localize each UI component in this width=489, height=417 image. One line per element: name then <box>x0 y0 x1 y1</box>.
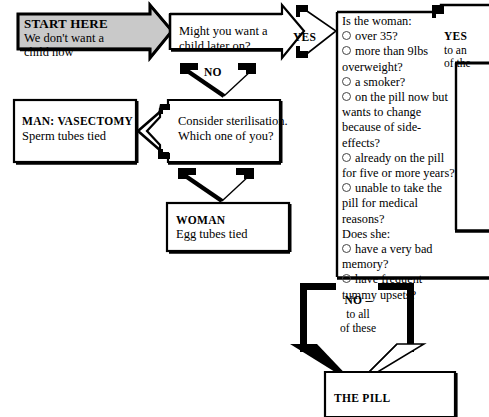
circle-bullet-icon <box>342 77 351 86</box>
circle-bullet-icon <box>342 274 351 283</box>
woman-line-1: Egg tubes tied <box>176 227 248 242</box>
start-line-1: We don't want a <box>24 31 104 46</box>
questions-prompt-2: Does she: <box>342 227 488 242</box>
circle-bullet-icon <box>342 153 351 162</box>
start-heading: START HERE <box>24 16 108 31</box>
question-item-a-3-cont: effects? <box>342 136 488 151</box>
sterilisation-line-2: Which one of you? <box>178 129 273 144</box>
circle-bullet-icon <box>342 183 351 192</box>
edge-label-yes-questions-2: to an <box>444 44 467 56</box>
edge-label-yes-questions-1: YES <box>444 30 467 42</box>
question-item-a-5-cont: reasons? <box>342 212 488 227</box>
vasectomy-line-1: Sperm tubes tied <box>22 129 106 144</box>
the-pill-heading: THE PILL <box>334 391 390 405</box>
sterilisation-line-1: Consider sterilisation. <box>178 114 288 129</box>
question-item-a-5: unable to take the <box>342 181 488 196</box>
question-item-b-1: have frequent <box>342 272 488 287</box>
flowchart-canvas: START HERE We don't want a child now Mig… <box>0 0 489 417</box>
arrow-to-woman <box>178 168 254 201</box>
circle-bullet-icon <box>342 244 351 253</box>
edge-label-yes-questions-3: of the <box>444 57 471 69</box>
edge-label-no-all-1: NO – <box>330 294 386 306</box>
question-item-a-3-cont: because of side- <box>342 120 488 135</box>
question-item-a-3: on the pill now but <box>342 90 488 105</box>
later-child-line-1: Might you want a <box>179 24 268 39</box>
question-item-a-5-cont: pill for medical <box>342 196 488 211</box>
edge-label-no-all-2: to all <box>330 308 386 320</box>
vasectomy-heading: MAN: VASECTOMY <box>22 114 133 128</box>
later-child-line-2: child later on? <box>179 39 251 54</box>
questions-prompt-1: Is the woman: <box>342 14 488 29</box>
question-item-a-4: already on the pill <box>342 151 488 166</box>
circle-bullet-icon <box>342 31 351 40</box>
question-item-b-0-cont: memory? <box>342 257 488 272</box>
question-item-a-4-cont: for five or more years? <box>342 166 488 181</box>
question-item-a-3-cont: wants to change <box>342 105 488 120</box>
question-item-b-0: have a very bad <box>342 242 488 257</box>
question-item-a-2: a smoker? <box>342 75 488 90</box>
start-line-2: child now <box>24 45 74 60</box>
edge-label-no-later-child: NO <box>204 66 222 78</box>
circle-bullet-icon <box>342 46 351 55</box>
circle-bullet-icon <box>342 92 351 101</box>
edge-label-yes-later-child: YES <box>293 31 316 43</box>
edge-label-no-all-3: of these <box>330 322 386 334</box>
woman-heading: WOMAN <box>176 213 225 227</box>
